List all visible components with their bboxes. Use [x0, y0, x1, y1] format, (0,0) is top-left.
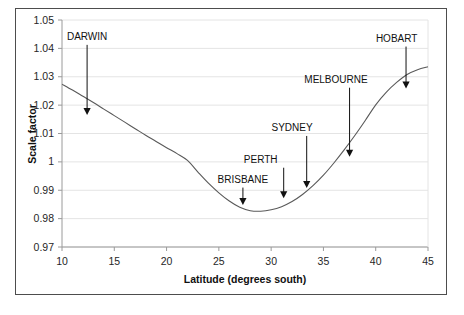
- cut-off-caption: [30, 303, 434, 311]
- y-axis-tick-label: 1.03: [34, 70, 55, 82]
- scale-factor-vs-latitude-chart: 1.051.041.031.021.0110.990.980.97 101520…: [0, 0, 464, 315]
- annotation-arrow-head-melbourne: [346, 150, 353, 157]
- annotation-label-perth: PERTH: [244, 154, 278, 165]
- y-axis-tick-label: 0.98: [34, 212, 55, 224]
- annotation-arrow-head-brisbane: [239, 198, 246, 205]
- x-axis-tick-labels: 1015202530354045: [56, 247, 434, 267]
- x-axis-tick-label: 25: [213, 255, 225, 267]
- annotation-label-hobart: HOBART: [376, 33, 418, 44]
- x-axis-tick-label: 45: [422, 255, 434, 267]
- x-axis-tick-label: 10: [56, 255, 68, 267]
- annotation-arrow-head-perth: [280, 191, 287, 198]
- annotation-arrow-head-sydney: [303, 181, 310, 188]
- annotation-label-melbourne: MELBOURNE: [304, 74, 368, 85]
- annotation-label-brisbane: BRISBANE: [218, 174, 269, 185]
- gridlines: [62, 20, 428, 247]
- y-axis-tick-label: 0.99: [34, 184, 55, 196]
- x-axis-tick-label: 35: [318, 255, 330, 267]
- x-axis-tick-label: 15: [108, 255, 120, 267]
- data-series-line: [62, 67, 428, 211]
- y-axis-tick-label: 1.04: [34, 42, 55, 54]
- annotation-label-sydney: SYDNEY: [271, 122, 312, 133]
- x-axis-title: Latitude (degrees south): [184, 273, 307, 285]
- x-axis-tick-label: 40: [370, 255, 382, 267]
- y-axis-tick-label: 0.97: [34, 241, 55, 253]
- annotation-arrow-head-darwin: [83, 108, 90, 115]
- x-axis-tick-label: 20: [161, 255, 173, 267]
- annotation-label-darwin: DARWIN: [67, 31, 107, 42]
- y-axis-title: Scale factor: [26, 104, 38, 164]
- annotation-arrow-head-hobart: [402, 81, 409, 88]
- city-annotations: DARWINBRISBANEPERTHSYDNEYMELBOURNEHOBART: [67, 31, 417, 205]
- series-line-scale-factor: [62, 67, 428, 211]
- chart-figure: 1.051.041.031.021.0110.990.980.97 101520…: [0, 0, 464, 315]
- y-axis-tick-label: 1: [48, 155, 54, 167]
- x-axis-tick-label: 30: [265, 255, 277, 267]
- y-axis-tick-label: 1.05: [34, 14, 55, 26]
